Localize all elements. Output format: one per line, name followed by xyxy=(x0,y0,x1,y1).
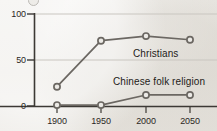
x-tick-label-2000: 2000 xyxy=(129,116,163,126)
data-point-marker xyxy=(98,38,104,44)
data-point-marker xyxy=(143,33,149,39)
series-chinese-folk-religion xyxy=(54,92,193,108)
plot-area xyxy=(0,0,217,131)
x-tick-label-2050: 2050 xyxy=(173,116,207,126)
data-point-marker xyxy=(54,84,60,90)
y-tick-label-50: 50 xyxy=(2,55,26,65)
data-series-layer xyxy=(54,33,193,108)
y-axis-ticks xyxy=(27,14,34,106)
x-tick-label-1950: 1950 xyxy=(84,116,118,126)
y-tick-label-0: 0 xyxy=(2,101,26,111)
series-label-chinese-folk-religion: Chinese folk religion xyxy=(113,76,205,87)
series-line xyxy=(57,95,190,105)
data-point-marker xyxy=(54,102,60,108)
data-point-marker xyxy=(187,92,193,98)
y-tick-label-100: 100 xyxy=(2,9,26,19)
series-label-christians: Christians xyxy=(133,48,178,59)
line-chart-figure: 100 50 0 1900 1950 2000 2050 Christians … xyxy=(0,0,217,131)
data-point-marker xyxy=(187,37,193,43)
data-point-marker xyxy=(98,102,104,108)
data-point-marker xyxy=(143,92,149,98)
x-tick-label-1900: 1900 xyxy=(40,116,74,126)
